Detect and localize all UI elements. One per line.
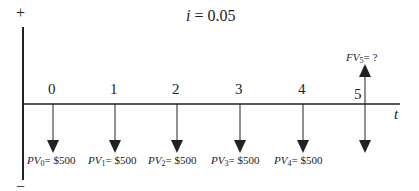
period-label-2: 2 (172, 81, 180, 98)
interest-rate: i = 0.05 (186, 7, 235, 25)
arrow-up-icon (359, 64, 371, 77)
arrow-down-icon (297, 140, 309, 153)
cash-flow-label-2: PV2= $500 (148, 154, 196, 168)
period-label-3: 3 (235, 81, 243, 98)
arrow-down-icon (47, 140, 59, 153)
cash-flow-diagram: + − i = 0.05 t 0 1 2 3 4 5 PV0= $500 PV1… (0, 0, 419, 191)
cash-flow-label-1: PV1= $500 (88, 154, 136, 168)
arrow-down-icon (359, 140, 371, 153)
negative-sign: − (16, 178, 25, 191)
period-label-5: 5 (354, 86, 362, 103)
time-axis-label: t (394, 106, 398, 123)
period-label-4: 4 (298, 81, 306, 98)
arrow-down-icon (109, 140, 121, 153)
future-value-label: FV5= ? (346, 51, 377, 65)
period-label-0: 0 (48, 81, 56, 98)
cash-flow-label-4: PV4= $500 (274, 154, 322, 168)
down-arrows (47, 104, 371, 153)
positive-sign: + (16, 4, 25, 22)
arrow-down-icon (171, 140, 183, 153)
cash-flow-label-3: PV3= $500 (211, 154, 259, 168)
cash-flow-label-0: PV0= $500 (27, 154, 75, 168)
period-label-1: 1 (110, 81, 118, 98)
arrow-down-icon (234, 140, 246, 153)
